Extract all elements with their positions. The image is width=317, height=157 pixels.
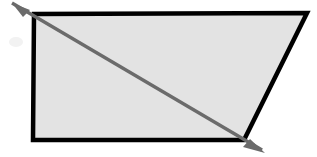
geometry-diagram xyxy=(0,0,317,157)
scan-smudge-icon xyxy=(9,37,23,47)
figure-canvas xyxy=(0,0,317,157)
